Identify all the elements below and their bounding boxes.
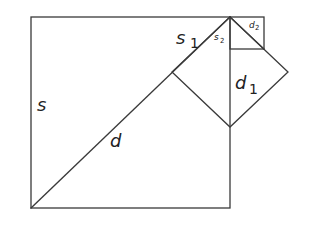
diagonal-d2 xyxy=(230,17,264,49)
label-s2-subscript: 2 xyxy=(220,37,224,45)
label-d1-subscript: 1 xyxy=(249,81,258,97)
label-s2: s xyxy=(214,32,219,42)
label-s: s xyxy=(37,94,46,115)
label-s1-subscript: 1 xyxy=(190,35,199,51)
label-d1: d xyxy=(235,72,247,93)
label-d: d xyxy=(110,130,122,151)
label-d2-subscript: 2 xyxy=(255,24,259,32)
label-s1: s xyxy=(176,27,185,48)
geometry-diagram: s d s 1 d 1 s 2 d 2 xyxy=(0,0,312,231)
